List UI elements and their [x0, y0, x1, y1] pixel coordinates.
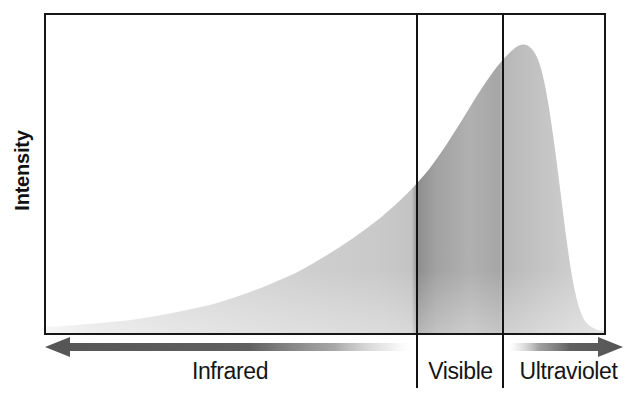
- arrow-right-icon: [506, 336, 628, 358]
- y-axis-label: Intensity: [0, 0, 44, 340]
- band-label-visible: Visible: [419, 358, 502, 385]
- intensity-curve: [46, 15, 604, 333]
- spectrum-intensity-figure: Intensity: [0, 0, 631, 399]
- y-axis-label-text: Intensity: [11, 130, 34, 210]
- plot-area: [44, 13, 606, 335]
- curve-baseline-fade: [46, 15, 604, 333]
- band-label-ultraviolet: Ultraviolet: [506, 358, 631, 385]
- arrow-left-icon: [40, 336, 416, 358]
- band-label-infrared: Infrared: [44, 358, 416, 385]
- band-divider-infrared-visible: [416, 13, 418, 388]
- band-divider-visible-ultraviolet: [502, 13, 504, 388]
